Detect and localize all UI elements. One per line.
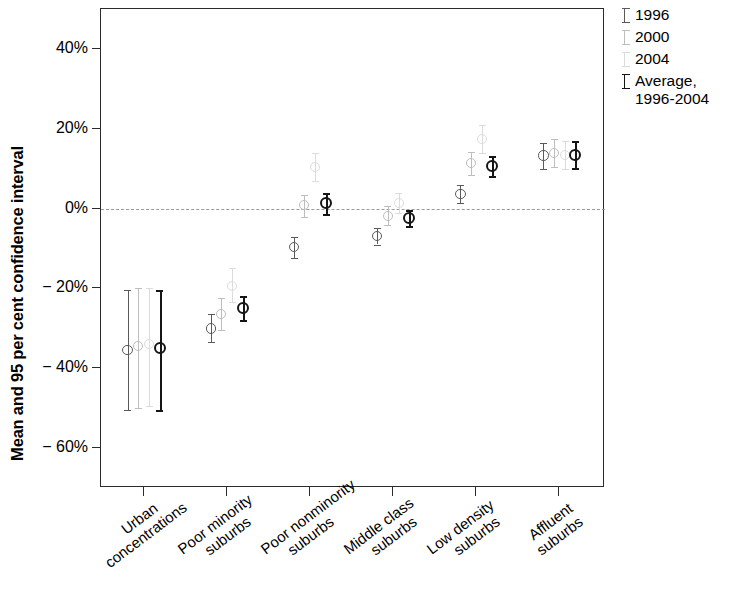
confidence-interval-upper-cap bbox=[218, 298, 225, 299]
y-axis-tick-label: 20% bbox=[8, 119, 100, 137]
confidence-interval-lower-cap bbox=[312, 181, 319, 182]
x-axis-tick-label: Urbanconcentrations bbox=[92, 500, 171, 571]
confidence-interval-lower-cap bbox=[572, 168, 579, 170]
confidence-interval-upper-cap bbox=[156, 290, 163, 292]
confidence-interval-lower-cap bbox=[468, 175, 475, 176]
legend-item-2004[interactable]: 2004 bbox=[618, 50, 735, 71]
data-point-marker bbox=[455, 189, 465, 199]
confidence-interval-upper-cap bbox=[135, 288, 142, 289]
y-axis-tick-labels: 40%20%0%− 20%− 40%− 60% bbox=[0, 0, 100, 607]
y-axis-tick-label: 0% bbox=[8, 199, 100, 217]
x-axis-tick-mark bbox=[309, 487, 310, 496]
legend-marker-icon bbox=[618, 50, 632, 69]
data-point-marker bbox=[122, 345, 132, 355]
legend-marker-icon bbox=[618, 6, 632, 25]
x-axis-tick-mark bbox=[226, 487, 227, 496]
data-point-marker bbox=[538, 150, 548, 160]
confidence-interval-upper-cap bbox=[395, 193, 402, 194]
confidence-interval-lower-cap bbox=[374, 245, 381, 246]
confidence-interval-lower-cap bbox=[540, 169, 547, 170]
confidence-interval-upper-cap bbox=[229, 268, 236, 269]
data-point-marker bbox=[383, 211, 393, 221]
confidence-interval-lower-cap bbox=[562, 169, 569, 170]
legend: 199620002004Average, 1996-2004 bbox=[618, 6, 735, 110]
confidence-interval-upper-cap bbox=[374, 228, 381, 229]
data-point-marker bbox=[394, 198, 404, 208]
confidence-interval-lower-cap bbox=[551, 167, 558, 168]
legend-item-label: 2000 bbox=[635, 28, 669, 46]
confidence-interval-lower-cap bbox=[124, 410, 131, 411]
confidence-interval-upper-cap bbox=[323, 193, 330, 195]
zero-reference-line bbox=[101, 209, 605, 210]
confidence-interval-lower-cap bbox=[489, 176, 496, 178]
confidence-interval-upper-cap bbox=[240, 296, 247, 298]
x-axis-tick-mark bbox=[475, 487, 476, 496]
x-axis-tick-label: Poor nonminoritysuburbs bbox=[258, 500, 337, 571]
chart-figure: Mean and 95 per cent confidence interval… bbox=[0, 0, 735, 607]
confidence-interval-upper-cap bbox=[384, 206, 391, 207]
confidence-interval-lower-cap bbox=[208, 342, 215, 343]
data-point-marker bbox=[403, 212, 415, 224]
confidence-interval-lower-cap bbox=[301, 217, 308, 218]
data-point-marker bbox=[477, 134, 487, 144]
data-point-marker bbox=[560, 150, 570, 160]
plot-area bbox=[100, 8, 604, 487]
confidence-interval-upper-cap bbox=[291, 237, 298, 238]
data-point-marker bbox=[549, 148, 559, 158]
legend-item-average[interactable]: Average, 1996-2004 bbox=[618, 72, 735, 109]
legend-marker-icon bbox=[618, 72, 632, 91]
x-axis-tick-mark bbox=[143, 487, 144, 496]
confidence-interval-upper-cap bbox=[208, 314, 215, 315]
y-axis-tick-label: − 20% bbox=[8, 278, 100, 296]
y-axis-tick-label: − 40% bbox=[8, 358, 100, 376]
data-point-marker bbox=[206, 323, 216, 333]
x-axis-tick-mark bbox=[558, 487, 559, 496]
x-axis-tick-mark bbox=[392, 487, 393, 496]
confidence-interval-upper-cap bbox=[489, 156, 496, 158]
confidence-interval-lower-cap bbox=[135, 408, 142, 409]
data-point-marker bbox=[320, 197, 332, 209]
confidence-interval-upper-cap bbox=[572, 141, 579, 143]
x-axis-tick-label: Affluentsuburbs bbox=[507, 500, 586, 571]
confidence-interval-lower-cap bbox=[229, 302, 236, 303]
data-point-marker bbox=[216, 309, 226, 319]
data-point-marker bbox=[466, 158, 476, 168]
data-point-marker bbox=[486, 160, 498, 172]
confidence-interval-lower-cap bbox=[457, 203, 464, 204]
confidence-interval-lower-cap bbox=[240, 320, 247, 322]
data-point-marker bbox=[289, 242, 299, 252]
x-axis-tick-label: Middle classsuburbs bbox=[341, 500, 420, 571]
confidence-interval-upper-cap bbox=[562, 141, 569, 142]
y-axis-tick-label: − 60% bbox=[8, 438, 100, 456]
data-point-marker bbox=[144, 339, 154, 349]
confidence-interval-upper-cap bbox=[457, 185, 464, 186]
x-axis-tick-label: Low densitysuburbs bbox=[424, 500, 503, 571]
data-point-marker bbox=[154, 342, 166, 354]
legend-item-2000[interactable]: 2000 bbox=[618, 28, 735, 49]
confidence-interval-upper-cap bbox=[146, 288, 153, 289]
confidence-interval-lower-cap bbox=[218, 330, 225, 331]
confidence-interval-lower-cap bbox=[323, 214, 330, 216]
data-point-marker bbox=[310, 162, 320, 172]
confidence-interval-lower-cap bbox=[291, 258, 298, 259]
legend-item-1996[interactable]: 1996 bbox=[618, 6, 735, 27]
legend-marker-icon bbox=[618, 28, 632, 47]
confidence-interval-upper-cap bbox=[468, 152, 475, 153]
data-point-marker bbox=[227, 281, 237, 291]
legend-item-label: 1996 bbox=[635, 6, 669, 24]
legend-item-label: Average, 1996-2004 bbox=[635, 72, 709, 109]
confidence-interval-lower-cap bbox=[156, 410, 163, 412]
data-point-marker bbox=[569, 149, 581, 161]
confidence-interval-lower-cap bbox=[384, 225, 391, 226]
confidence-interval-lower-cap bbox=[146, 406, 153, 407]
data-point-marker bbox=[372, 231, 382, 241]
confidence-interval-upper-cap bbox=[479, 125, 486, 126]
data-point-marker bbox=[133, 341, 143, 351]
confidence-interval-lower-cap bbox=[479, 153, 486, 154]
confidence-interval-upper-cap bbox=[312, 153, 319, 154]
confidence-interval-upper-cap bbox=[551, 139, 558, 140]
legend-item-label: 2004 bbox=[635, 50, 669, 68]
confidence-interval-upper-cap bbox=[301, 195, 308, 196]
data-point-marker bbox=[237, 302, 249, 314]
confidence-interval-upper-cap bbox=[540, 143, 547, 144]
